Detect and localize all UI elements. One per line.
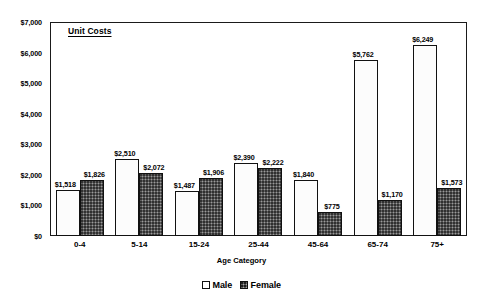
y-axis-tick-label: $5,000 bbox=[21, 79, 42, 88]
bar-group: $1,487$1,906 bbox=[169, 22, 229, 236]
bar-group: $6,249$1,573 bbox=[407, 22, 467, 236]
x-axis-title: Age Category bbox=[0, 256, 483, 265]
x-axis-tick-label: 65-74 bbox=[367, 240, 387, 249]
bar-group: $1,518$1,826 bbox=[50, 22, 110, 236]
bar-value-label: $1,518 bbox=[55, 180, 76, 189]
bar-value-label: $1,826 bbox=[84, 170, 105, 179]
bar-value-label: $2,390 bbox=[233, 153, 254, 162]
y-axis-tick-label: $1,000 bbox=[21, 201, 42, 210]
unit-costs-bar-chart: Unit Costs $0$1,000$2,000$3,000$4,000$5,… bbox=[0, 0, 483, 303]
bars-layer: $1,518$1,826$2,510$2,072$1,487$1,906$2,3… bbox=[50, 22, 467, 236]
bar-value-label: $5,762 bbox=[353, 50, 374, 59]
bar-female-65-74: $1,170 bbox=[378, 200, 402, 236]
legend-swatch-female-icon bbox=[240, 281, 248, 289]
bar-female-5-14: $2,072 bbox=[139, 173, 163, 236]
bar-male-75+: $6,249 bbox=[413, 45, 437, 236]
bar-value-label: $775 bbox=[324, 202, 339, 211]
x-axis-tick-label: 45-64 bbox=[308, 240, 328, 249]
bar-male-15-24: $1,487 bbox=[175, 191, 199, 236]
bar-group: $2,390$2,222 bbox=[229, 22, 289, 236]
legend-swatch-male-icon bbox=[202, 281, 210, 289]
bar-value-label: $2,510 bbox=[114, 149, 135, 158]
bar-male-65-74: $5,762 bbox=[354, 60, 378, 236]
x-axis-tick-label: 25-44 bbox=[248, 240, 268, 249]
bar-group: $5,762$1,170 bbox=[348, 22, 408, 236]
bar-male-25-44: $2,390 bbox=[234, 163, 258, 236]
bar-value-label: $1,906 bbox=[203, 168, 224, 177]
bar-female-25-44: $2,222 bbox=[258, 168, 282, 236]
y-axis: $0$1,000$2,000$3,000$4,000$5,000$6,000$7… bbox=[0, 22, 46, 236]
bar-value-label: $1,573 bbox=[441, 178, 462, 187]
bar-value-label: $1,487 bbox=[174, 181, 195, 190]
y-axis-tick-label: $4,000 bbox=[21, 109, 42, 118]
y-axis-tick-label: $7,000 bbox=[21, 18, 42, 27]
bar-value-label: $2,072 bbox=[143, 163, 164, 172]
bar-value-label: $6,249 bbox=[412, 35, 433, 44]
bar-female-75+: $1,573 bbox=[437, 188, 461, 236]
x-axis-tick-label: 5-14 bbox=[131, 240, 147, 249]
legend-item-female[interactable]: Female bbox=[240, 280, 281, 290]
y-axis-tick-label: $3,000 bbox=[21, 140, 42, 149]
legend-label: Male bbox=[212, 280, 232, 290]
bar-value-label: $2,222 bbox=[262, 158, 283, 167]
legend-label: Female bbox=[251, 280, 281, 290]
x-axis-tick-label: 15-24 bbox=[189, 240, 209, 249]
x-axis-tick-label: 0-4 bbox=[74, 240, 86, 249]
y-axis-tick-label: $6,000 bbox=[21, 48, 42, 57]
bar-male-0-4: $1,518 bbox=[56, 190, 80, 236]
bar-female-0-4: $1,826 bbox=[80, 180, 104, 236]
x-axis: 0-45-1415-2425-4445-6465-7475+ bbox=[50, 240, 467, 254]
bar-male-5-14: $2,510 bbox=[115, 159, 139, 236]
y-axis-tick-label: $2,000 bbox=[21, 170, 42, 179]
bar-value-label: $1,170 bbox=[382, 190, 403, 199]
x-axis-tick-label: 75+ bbox=[430, 240, 444, 249]
legend-item-male[interactable]: Male bbox=[202, 280, 232, 290]
bar-group: $2,510$2,072 bbox=[110, 22, 170, 236]
bar-female-15-24: $1,906 bbox=[199, 178, 223, 236]
y-axis-tick-label: $0 bbox=[34, 232, 42, 241]
chart-legend: MaleFemale bbox=[0, 280, 483, 290]
bar-value-label: $1,840 bbox=[293, 170, 314, 179]
bar-female-45-64: $775 bbox=[318, 212, 342, 236]
bar-male-45-64: $1,840 bbox=[294, 180, 318, 236]
bar-group: $1,840$775 bbox=[288, 22, 348, 236]
